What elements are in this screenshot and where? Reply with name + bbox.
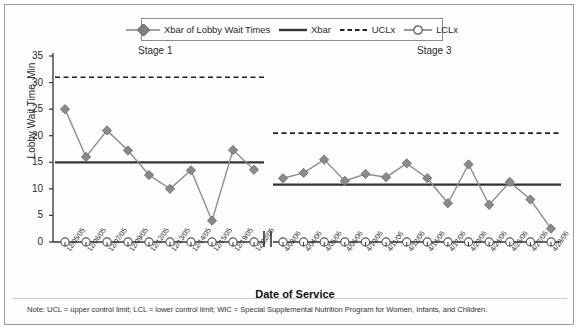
y-tick-label: 35 [21, 50, 43, 61]
y-tick-label: 25 [21, 103, 43, 114]
data-point-marker [299, 168, 308, 177]
data-point-marker [464, 160, 473, 169]
data-point-marker [361, 169, 370, 178]
data-point-marker [60, 105, 69, 114]
y-tick-label: 0 [21, 236, 43, 247]
data-point-marker [278, 174, 287, 183]
y-tick-label: 5 [21, 209, 43, 220]
data-point-marker [546, 224, 555, 233]
chart-frame: Xbar of Lobby Wait Times Xbar UCLx LCLx … [4, 4, 574, 325]
footnote-divider [13, 298, 567, 299]
data-point-marker [207, 216, 216, 225]
y-tick-label: 30 [21, 77, 43, 88]
chart-plot [5, 5, 575, 326]
y-tick-label: 15 [21, 156, 43, 167]
data-series-line [65, 109, 254, 221]
data-point-marker [381, 173, 390, 182]
y-tick-label: 10 [21, 183, 43, 194]
y-tick-label: 20 [21, 130, 43, 141]
data-point-marker [402, 159, 411, 168]
data-series-line [283, 160, 551, 229]
chart-footnote: Note: UCL = upper control limit; LCL = l… [27, 305, 557, 314]
